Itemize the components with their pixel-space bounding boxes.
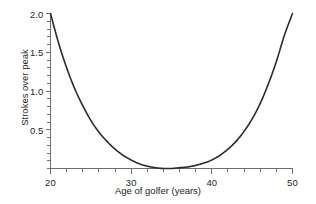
data-series-group: [51, 14, 293, 169]
x-axis-title: Age of golfer (years): [0, 185, 316, 196]
chart-plot-area: [0, 0, 316, 204]
axis-group: [46, 14, 293, 174]
y-axis-title: Strokes over peak: [19, 18, 30, 158]
data-series-line: [51, 14, 293, 169]
chart-figure: 0.51.01.52.0 20304050 Strokes over peak …: [0, 0, 316, 204]
